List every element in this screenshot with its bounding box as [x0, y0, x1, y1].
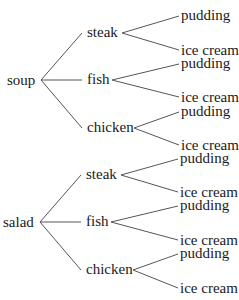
node-salad-chicken: chicken: [86, 262, 133, 277]
soup-chicken-branches: [134, 112, 179, 145]
root-node-salad: salad: [3, 215, 34, 230]
leaf-soup-steak-pudding: pudding: [181, 8, 230, 23]
soup-branches: [41, 33, 82, 128]
soup-steak-branches: [122, 16, 179, 50]
node-soup-chicken: chicken: [87, 120, 134, 135]
root-node-soup: soup: [7, 73, 35, 88]
leaf-salad-chicken-icecream: ice cream: [180, 281, 238, 296]
salad-branches: [40, 175, 81, 270]
node-soup-steak: steak: [87, 25, 118, 40]
node-soup-fish: fish: [87, 72, 110, 87]
leaf-soup-fish-pudding: pudding: [181, 56, 230, 71]
salad-chicken-branches: [133, 254, 178, 288]
node-salad-fish: fish: [86, 214, 109, 229]
salad-fish-branches: [111, 206, 178, 240]
leaf-salad-steak-pudding: pudding: [180, 151, 229, 166]
leaf-salad-fish-pudding: pudding: [180, 198, 229, 213]
soup-fish-branches: [112, 64, 179, 97]
leaf-salad-chicken-pudding: pudding: [180, 246, 229, 261]
salad-steak-branches: [121, 159, 178, 192]
leaf-soup-chicken-pudding: pudding: [181, 104, 230, 119]
node-salad-steak: steak: [86, 167, 117, 182]
